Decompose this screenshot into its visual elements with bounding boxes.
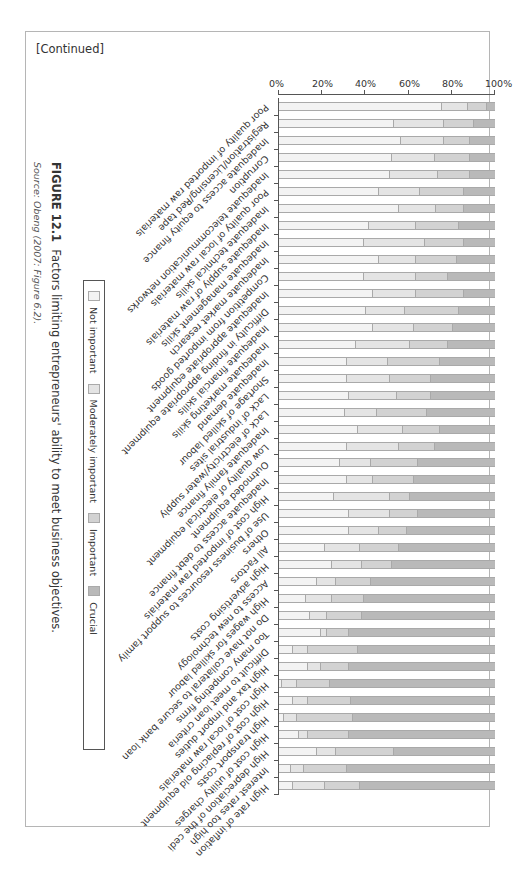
y-tick-label: 60%	[399, 78, 420, 89]
bar-segment-mi	[290, 764, 303, 773]
bar-segment-cr	[359, 781, 495, 790]
bar-segment-mi	[298, 730, 307, 739]
bar-segment-im	[296, 713, 352, 722]
bar-segment-ni	[279, 509, 348, 518]
bar	[279, 594, 495, 603]
bar	[279, 696, 495, 705]
x-tick	[274, 794, 279, 795]
x-tick	[274, 200, 279, 201]
bar-segment-mi	[378, 187, 419, 196]
x-tick	[274, 726, 279, 727]
bar	[279, 764, 495, 773]
bar-segment-mi	[372, 289, 415, 298]
x-tick	[274, 149, 279, 150]
bar-segment-cr	[469, 153, 495, 162]
bar-segment-ni	[279, 255, 378, 264]
bar-segment-mi	[348, 526, 378, 535]
bar	[279, 153, 495, 162]
bar-segment-cr	[463, 238, 495, 247]
bar-segment-ni	[279, 713, 283, 722]
bar	[279, 425, 495, 434]
bar-segment-ni	[279, 747, 316, 756]
bar-segment-ni	[279, 391, 348, 400]
bar	[279, 713, 495, 722]
bar-segment-mi	[316, 577, 335, 586]
x-tick	[274, 539, 279, 540]
y-tick-label: 80%	[442, 78, 463, 89]
bar-segment-im	[361, 560, 391, 569]
x-tick	[274, 387, 279, 388]
bar-segment-im	[443, 119, 473, 128]
bar-segment-im	[415, 289, 463, 298]
x-tick	[274, 641, 279, 642]
bar-segment-ni	[279, 594, 305, 603]
y-tick	[278, 90, 279, 95]
bar-segment-mi	[389, 170, 437, 179]
y-tick	[408, 90, 409, 95]
bar-segment-mi	[363, 272, 415, 281]
bar-segment-ni	[279, 289, 372, 298]
bar-segment-mi	[292, 696, 307, 705]
bar-segment-mi	[441, 102, 467, 111]
bar-segment-cr	[413, 475, 495, 484]
bar-segment-im	[376, 408, 426, 417]
legend-label: Important	[89, 529, 100, 576]
bar-segment-ni	[279, 136, 400, 145]
x-tick	[274, 183, 279, 184]
bar	[279, 458, 495, 467]
bar-segment-im	[324, 781, 359, 790]
bar-segment-ni	[279, 425, 357, 434]
bar-segment-ni	[279, 153, 391, 162]
bar	[279, 560, 495, 569]
bar	[279, 442, 495, 451]
bar-segment-im	[307, 645, 357, 654]
bar-segment-cr	[417, 509, 495, 518]
bar-segment-im	[443, 136, 469, 145]
bar-segment-ni	[279, 458, 339, 467]
bar-segment-ni	[279, 560, 331, 569]
bar-segment-cr	[473, 119, 495, 128]
bar	[279, 102, 495, 111]
bar-segment-ni	[279, 238, 363, 247]
y-tick-label: 100%	[485, 78, 512, 89]
bar-segment-mi	[344, 408, 376, 417]
bar	[279, 289, 495, 298]
x-tick	[274, 743, 279, 744]
continued-label: [Continued]	[36, 42, 104, 56]
bar-segment-mi	[292, 781, 324, 790]
bar	[279, 170, 495, 179]
bar-segment-mi	[363, 238, 423, 247]
x-tick	[274, 607, 279, 608]
bar-segment-cr	[352, 713, 495, 722]
bar-segment-cr	[447, 272, 495, 281]
bar-segment-cr	[486, 102, 495, 111]
x-tick	[274, 675, 279, 676]
bar-segment-mi	[292, 645, 307, 654]
bar-segment-ni	[279, 475, 346, 484]
bar-segment-ni	[279, 696, 292, 705]
bar-segment-ni	[279, 611, 309, 620]
bar-segment-cr	[409, 492, 495, 501]
bar-segment-mi	[365, 306, 404, 315]
bar-segment-cr	[348, 730, 495, 739]
y-tick	[364, 90, 365, 95]
bar-segment-im	[307, 696, 350, 705]
bar-segment-ni	[279, 204, 398, 213]
bar-segment-cr	[458, 306, 495, 315]
bar	[279, 475, 495, 484]
bar-segment-ni	[279, 442, 346, 451]
bar	[279, 492, 495, 501]
bar-segment-ni	[279, 492, 333, 501]
bar-segment-ni	[279, 374, 346, 383]
bar	[279, 645, 495, 654]
bar	[279, 238, 495, 247]
bar-segment-ni	[279, 628, 320, 637]
bar-segment-mi	[281, 679, 296, 688]
bar	[279, 204, 495, 213]
bar-segment-ni	[279, 577, 316, 586]
bar-segment-cr	[430, 391, 495, 400]
x-tick	[274, 217, 279, 218]
bar-segment-mi	[355, 340, 409, 349]
bar-segment-im	[419, 187, 462, 196]
bar	[279, 374, 495, 383]
